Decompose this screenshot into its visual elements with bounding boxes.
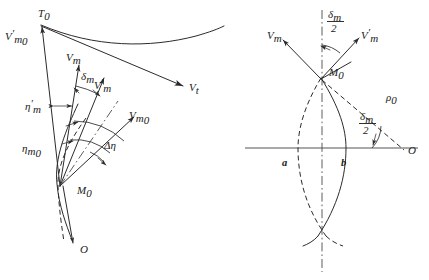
upper-trajectory-curve bbox=[41, 25, 224, 44]
vector-vm bbox=[60, 65, 79, 186]
label-Vm: Vm bbox=[66, 51, 81, 66]
label-O-left: O bbox=[80, 243, 88, 255]
ray-to-vt bbox=[41, 26, 183, 86]
technical-diagram-svg: T0 V′m0 Vm δm V′m η′m Vm0 ηm0 Δ bbox=[0, 0, 429, 280]
fraction-delta-m-over-2-bottom: δm 2 bbox=[359, 110, 376, 136]
tail-to-origin bbox=[63, 186, 73, 243]
label-M0-left: M0 bbox=[76, 184, 92, 199]
vector-vm-right bbox=[283, 40, 321, 79]
label-delta-eta: Δη bbox=[103, 139, 116, 151]
label-Vm-prime-right: V′m bbox=[361, 26, 378, 44]
label-O-right: O bbox=[408, 144, 416, 156]
label-arc-b: b bbox=[341, 157, 346, 168]
label-Vm0-prime: V′m0 bbox=[5, 27, 28, 47]
angle-arc-inner-wedge bbox=[90, 152, 104, 162]
label-arc-a: a bbox=[282, 157, 287, 168]
label-rho0: ρ0 bbox=[385, 91, 397, 106]
fraction-top-numerator: δm bbox=[328, 8, 341, 23]
label-delta-m: δm bbox=[81, 70, 94, 85]
label-Vm-right: Vm bbox=[267, 29, 282, 44]
figure-root: T0 V′m0 Vm δm V′m η′m Vm0 ηm0 Δ bbox=[0, 0, 429, 280]
fraction-bottom-denominator: 2 bbox=[363, 124, 369, 136]
label-Vm0: Vm0 bbox=[129, 109, 150, 126]
label-eta-m0: ηm0 bbox=[22, 142, 41, 159]
lens-tail-dashed bbox=[326, 236, 343, 246]
label-Vt: Vt bbox=[189, 81, 200, 96]
angle-arc-delta-eta-tick bbox=[66, 122, 78, 126]
label-eta-m-prime: η′m bbox=[25, 97, 41, 115]
label-Vm-prime: V′m bbox=[94, 76, 111, 94]
label-T0: T0 bbox=[38, 7, 50, 22]
fraction-top-denominator: 2 bbox=[331, 22, 337, 34]
right-panel-group: Vm V′m δm 2 M0 ρ0 δm 2 bbox=[245, 8, 418, 272]
vector-vm0 bbox=[60, 117, 134, 186]
angle-arc-delta-eta bbox=[74, 121, 124, 141]
angle-arc-inner-wedge-tick bbox=[98, 158, 106, 165]
lens-tail-solid bbox=[303, 236, 318, 246]
fraction-delta-m-over-2-top: δm 2 bbox=[327, 8, 344, 34]
angle-arc-delta-half-top bbox=[322, 45, 340, 53]
label-M0-right: M0 bbox=[328, 66, 344, 81]
fraction-bottom-numerator: δm bbox=[360, 110, 373, 125]
left-panel-group: T0 V′m0 Vm δm V′m η′m Vm0 ηm0 Δ bbox=[5, 7, 224, 255]
